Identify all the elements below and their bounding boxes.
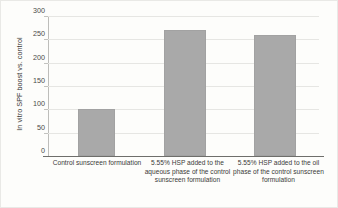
y-tick-label-200: 200 <box>23 52 45 61</box>
x-label-control-sunscreen-formulation: Control sunscreen formulation <box>48 159 146 168</box>
chart-figure: In vitro SPF boost vs. control 300 250 2… <box>0 0 338 208</box>
x-label-hsp-oil-phase: 5.55% HSP added to the oil phase of the … <box>232 159 325 185</box>
y-axis-tick-labels: 300 250 200 150 100 50 0 <box>23 10 45 156</box>
x-axis-category-labels: Control sunscreen formulation 5.55% HSP … <box>48 159 319 207</box>
bar-control-sunscreen-formulation <box>78 109 115 156</box>
y-tick-label-0: 0 <box>23 146 45 155</box>
x-axis-line <box>43 156 324 157</box>
y-tick-label-50: 50 <box>23 122 45 131</box>
y-tick-label-250: 250 <box>23 29 45 38</box>
y-tick-label-150: 150 <box>23 76 45 85</box>
gridline-300 <box>48 16 319 17</box>
y-tick-label-100: 100 <box>23 99 45 108</box>
bar-hsp-aqueous-phase <box>164 30 206 156</box>
plot-area <box>48 16 319 156</box>
y-tick-label-300: 300 <box>23 6 45 15</box>
bar-hsp-oil-phase <box>254 35 296 156</box>
x-label-hsp-aqueous-phase: 5.55% HSP added to the aqueous phase of … <box>140 159 235 185</box>
